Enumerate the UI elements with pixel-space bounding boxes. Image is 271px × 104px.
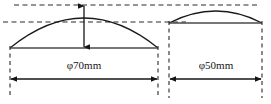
engineering-drawing-canvas: φ70mm φ50mm — [0, 0, 271, 104]
right-dome-arc — [169, 11, 262, 23]
right-dome-diameter-label: φ50mm — [199, 59, 234, 71]
drawing-vector-surface: φ70mm φ50mm — [0, 0, 271, 104]
left-dome-diameter-label: φ70mm — [67, 59, 102, 71]
